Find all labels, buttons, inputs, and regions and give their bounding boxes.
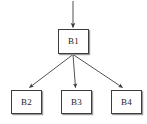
node-b1[interactable]: B1 [58, 29, 89, 54]
block-diagram: B1 B2 B3 B4 [0, 0, 147, 124]
edge-b1-to-b3 [73, 55, 76, 88]
node-b2-label: B2 [21, 98, 32, 107]
node-b4[interactable]: B4 [111, 90, 142, 114]
node-b1-label: B1 [68, 37, 79, 46]
node-b3[interactable]: B3 [61, 90, 92, 114]
node-b4-label: B4 [121, 98, 132, 107]
edge-b1-to-b4 [73, 55, 123, 88]
node-b3-label: B3 [71, 98, 82, 107]
edge-b1-to-b2 [30, 55, 74, 88]
node-b2[interactable]: B2 [11, 90, 42, 114]
